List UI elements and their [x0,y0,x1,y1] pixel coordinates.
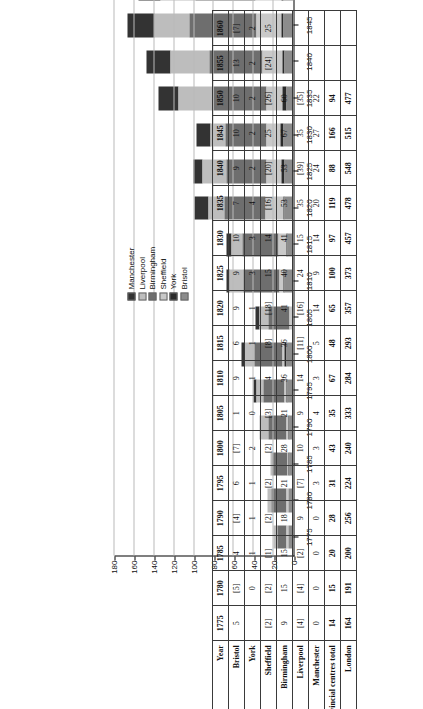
table-year-header: 1840 [213,151,229,186]
y-axis-tick-mark [115,557,116,561]
legend-label: Liverpool [137,257,148,289]
table-cell: 41 [277,291,293,326]
table-cell: 67 [277,116,293,151]
legend-swatch-icon [180,293,188,301]
table-year-header: 1780 [213,571,229,606]
table-cell: 191 [341,571,357,606]
table-cell: 9 [229,151,245,186]
chart-bar-segment [194,160,203,183]
table-cell: 373 [341,256,357,291]
table-cell: 48 [325,326,341,361]
table-year-header: 1785 [213,536,229,571]
table-year-header: 1820 [213,291,229,326]
data-table-wrapper: Year 17751780178517901795180018051810181… [212,76,364,709]
table-cell: 256 [341,501,357,536]
table-cell: 10 [229,116,245,151]
chart-bar-segment [159,87,179,110]
table-cell: [4] [293,571,309,606]
table-row: Provincial centres total1415202831433567… [325,11,341,709]
table-cell: [11] [293,326,309,361]
legend-swatch-icon [128,293,136,301]
legend-label: York [169,274,180,290]
table-cell: 7 [229,186,245,221]
table-cell: 31 [325,466,341,501]
table-cell: 40 [277,256,293,291]
table-cell: 13 [229,46,245,81]
table-cell: 2 [245,116,261,151]
table-cell: 3 [309,431,325,466]
table-header-row: Year 17751780178517901795180018051810181… [213,11,229,709]
table-cell: 88 [325,151,341,186]
table-cell: [39] [293,151,309,186]
table-cell: 3 [309,466,325,501]
table-cell: [1] [261,536,277,571]
table-cell: 478 [341,186,357,221]
table-cell: 0 [309,571,325,606]
table-row: London1641912002562242403332842933573734… [341,11,357,709]
legend-swatch-icon [170,293,178,301]
table-cell: [35] [293,81,309,116]
table-cell: [16] [261,186,277,221]
legend-label: Birmingham [148,247,159,290]
table-cell: [26] [261,81,277,116]
table-cell: 28 [325,501,341,536]
table-cell [341,11,357,46]
table-cell: 1 [245,536,261,571]
table-cell: 477 [341,81,357,116]
table-cell: [24] [261,46,277,81]
chart-gridline [193,0,194,556]
table-cell: [2] [293,536,309,571]
table-cell: 6 [229,326,245,361]
table-row-label: Birmingham [277,641,293,709]
table-cell: 35 [293,116,309,151]
table-cell: 20 [325,536,341,571]
table-year-header: 1810 [213,361,229,396]
table-cell: 9 [293,396,309,431]
table-cell: 97 [325,221,341,256]
table-cell: 25 [261,11,277,46]
legend-item: Sheffield [158,247,169,301]
table-cell: [2] [261,606,277,641]
y-axis-tick-label: 120 [170,561,179,601]
table-row: Manchester0000334351491420242722 [309,11,325,709]
table-cell: 36 [277,361,293,396]
table-cell: 36 [277,326,293,361]
legend-item: Birmingham [148,247,159,301]
table-cell: 333 [341,396,357,431]
table-row-label: London [341,641,357,709]
table-cell: 2 [245,11,261,46]
table-cell: 357 [341,291,357,326]
table-cell: 24 [293,256,309,291]
table-cell: 1 [229,396,245,431]
table-cell [293,11,309,46]
y-axis-tick-label: 160 [130,561,139,601]
table-cell: 9 [293,501,309,536]
table-cell: 2 [245,151,261,186]
chart-bar-segment [195,196,209,219]
table-cell: 4 [309,396,325,431]
table-cell: 9 [277,606,293,641]
table-year-header: 1795 [213,466,229,501]
chart-bar-segment [147,50,171,73]
table-year-header: 1860 [213,11,229,46]
table-cell: 293 [341,326,357,361]
legend-swatch-icon [149,293,157,301]
table-row: Birmingham915151821282136364140415353676… [277,11,293,709]
table-cell: 5 [309,326,325,361]
y-axis-tick-mark [135,557,136,561]
table-corner-label: Year [213,641,229,709]
table-cell [277,11,293,46]
table-cell: 119 [325,186,341,221]
table-cell: 14 [261,221,277,256]
table-cell: 60 [277,81,293,116]
table-cell: 15 [325,571,341,606]
table-cell: 15 [277,571,293,606]
table-cell: 515 [341,116,357,151]
table-cell: 4 [229,536,245,571]
legend-swatch-icon [138,293,146,301]
table-cell: [7] [229,11,245,46]
y-axis-tick-label: 180 [110,561,119,601]
chart-legend: ManchesterLiverpoolBirminghamSheffieldYo… [127,247,190,301]
table-cell: 15 [277,536,293,571]
table-cell: 240 [341,431,357,466]
